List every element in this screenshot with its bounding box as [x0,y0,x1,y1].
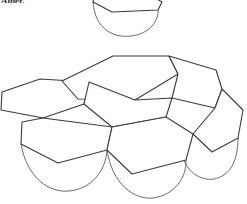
hex-upper-left [62,56,178,100]
caption-text-fragment: Amer. [1,0,25,3]
hex-upper-right [169,56,222,108]
hex-lower-left [21,118,112,163]
hex-lower-center [107,117,193,174]
hexagon-group [1,0,243,174]
hexagonal-tiling-figure [0,0,247,204]
hex-top-partial [93,0,162,12]
